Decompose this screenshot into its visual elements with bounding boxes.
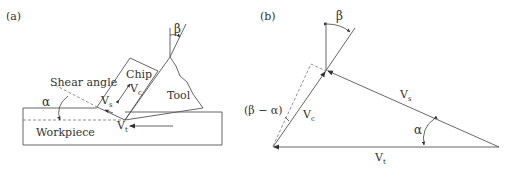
panel-a: (a) Workpiece Chip Tool β Shear angle α …	[6, 10, 222, 145]
panel-b-label: (b)	[260, 10, 276, 23]
shear-angle-label: Shear angle	[50, 76, 117, 89]
tool-flank-face	[125, 108, 203, 120]
tool-label: Tool	[167, 89, 191, 102]
vs-label-a: Vs	[100, 94, 113, 109]
vc-label-a: Vc	[129, 82, 142, 97]
vc-arrow-a	[119, 84, 130, 100]
beta-arc-b	[327, 24, 350, 32]
orthogonal-cutting-diagram: (a) Workpiece Chip Tool β Shear angle α …	[0, 0, 521, 170]
beta-minus-alpha-leader	[285, 117, 289, 121]
alpha-label-a: α	[42, 95, 50, 109]
vt-label-b: Vt	[374, 151, 386, 166]
vt-label-a: Vt	[116, 119, 128, 134]
vs-label-b: Vs	[399, 88, 412, 103]
workpiece-label: Workpiece	[36, 126, 95, 139]
vc-label-b: Vc	[302, 108, 315, 123]
beta-label-b: β	[336, 9, 343, 23]
beta-label-a: β	[174, 22, 181, 36]
tool-rake-line-b	[325, 28, 355, 72]
panel-b: (b) Vt Vs Vc β (β − α) α	[244, 9, 499, 166]
alpha-arc-b	[423, 119, 434, 145]
chip-label: Chip	[126, 68, 152, 81]
alpha-label-b: α	[414, 123, 422, 137]
beta-minus-alpha-label: (β − α)	[244, 104, 283, 117]
panel-a-label: (a)	[6, 10, 21, 23]
